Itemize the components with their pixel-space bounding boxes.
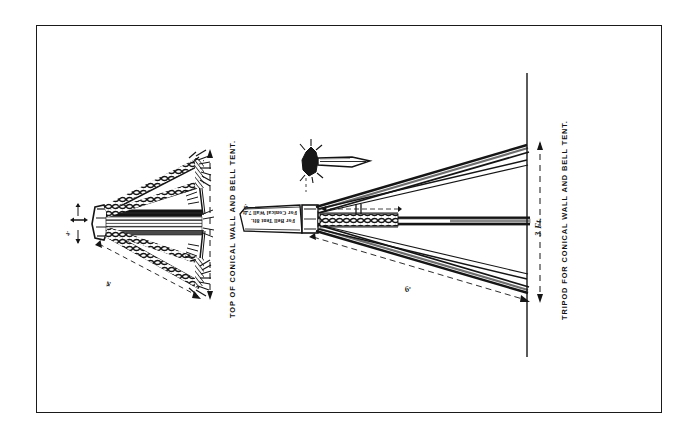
dimension-label-head-height: 4· — [64, 231, 71, 236]
caption-top-of-conical-wall-and-bell-tent: TOP OF CONICAL WALL AND BELL TENT. — [228, 140, 237, 318]
note-bell-tent: For Bell Tent 8ft. — [251, 218, 295, 224]
dimension-label-3ft: 3 Ft. — [533, 217, 543, 236]
drawing-page: TOP OF CONICAL WALL AND BELL TENT. TRIPO… — [0, 0, 698, 438]
note-conical-wall: For Conical Wall 7 ft. — [241, 210, 297, 216]
caption-tripod-for-conical-wall-and-bell-tent: TRIPOD FOR CONICAL WALL AND BELL TENT. — [560, 120, 569, 320]
